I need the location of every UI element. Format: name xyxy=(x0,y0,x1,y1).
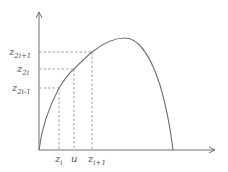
label-z2i-1: z2i-1 xyxy=(11,82,31,96)
label-u: u xyxy=(71,153,77,164)
diagram-canvas: z2i+1 z2i z2i-1 zi u zi+1 xyxy=(0,0,228,172)
label-z2i+1: z2i+1 xyxy=(8,46,31,60)
label-z2i: z2i xyxy=(16,63,29,77)
label-zi+1: zi+1 xyxy=(87,153,106,167)
label-zi: zi xyxy=(54,153,63,167)
